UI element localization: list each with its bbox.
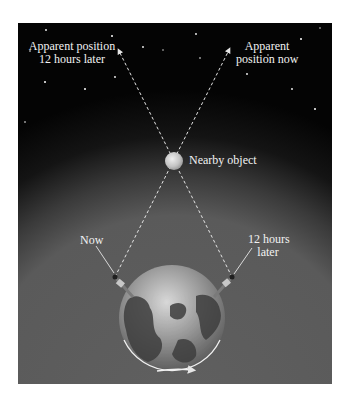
label-apparent-position-later: Apparent position 12 hours later	[26, 40, 118, 66]
label-now: Now	[80, 234, 103, 247]
earth	[119, 265, 225, 371]
label-apparent-position-now: Apparent position now	[236, 40, 298, 66]
label-line: 12 hours later	[26, 53, 118, 66]
label-nearby-object: Nearby object	[189, 154, 257, 167]
label-line: later	[248, 246, 288, 259]
parallax-diagram: Apparent position 12 hours later Apparen…	[0, 0, 352, 393]
label-line: position now	[236, 53, 298, 66]
nearby-object	[165, 152, 183, 170]
label-12-hours-later: 12 hours later	[248, 233, 288, 259]
